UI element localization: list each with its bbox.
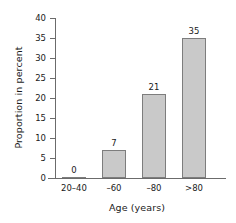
x-axis-line xyxy=(48,178,226,179)
y-tick-mark-25 xyxy=(50,78,55,79)
y-tick-mark-20 xyxy=(50,98,55,99)
y-tick-mark-5 xyxy=(50,158,55,159)
y-tick-mark-30 xyxy=(50,58,55,59)
y-tick-label-35: 35 xyxy=(6,34,46,43)
y-tick-label-5: 5 xyxy=(6,154,46,163)
bar-value-label-over-80: 35 xyxy=(174,27,214,36)
bar-category-60[interactable] xyxy=(102,150,126,178)
y-tick-mark-0 xyxy=(50,178,55,179)
y-tick-mark-10 xyxy=(50,138,55,139)
y-tick-mark-40 xyxy=(50,18,55,19)
y-tick-label-30: 30 xyxy=(6,54,46,63)
y-tick-label-25: 25 xyxy=(6,74,46,83)
bar-value-label-60: 7 xyxy=(94,139,134,148)
y-tick-label-0: 0 xyxy=(6,174,46,183)
y-tick-label-15: 15 xyxy=(6,114,46,123)
bar-category-over-80[interactable] xyxy=(182,38,206,178)
y-tick-label-20: 20 xyxy=(6,94,46,103)
bar-chart-figure: Proportion in percent 0 5 10 15 20 25 30… xyxy=(0,0,236,223)
y-tick-label-40: 40 xyxy=(6,14,46,23)
bar-category-20-40[interactable] xyxy=(62,177,86,178)
bar-value-label-80: 21 xyxy=(134,83,174,92)
y-tick-label-10: 10 xyxy=(6,134,46,143)
x-axis-title: Age (years) xyxy=(48,202,226,213)
y-tick-mark-15 xyxy=(50,118,55,119)
x-tick-label-over-80: >80 xyxy=(169,184,219,193)
y-axis-line xyxy=(55,18,56,179)
bar-value-label-20-40: 0 xyxy=(54,166,94,175)
bar-category-80[interactable] xyxy=(142,94,166,178)
y-tick-mark-35 xyxy=(50,38,55,39)
